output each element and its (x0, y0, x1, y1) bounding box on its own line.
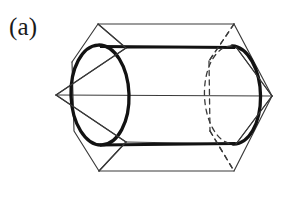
crossing-far-upper-left-hidden (209, 24, 234, 61)
cylinder-in-hexagonal-prism-diagram (0, 0, 293, 203)
cylinder-far-end-ellipse (204, 46, 260, 144)
crossing-near-upper-left (56, 48, 126, 95)
crossing-far-lower-left-hidden (210, 131, 234, 171)
cylinder-bottom-rule (100, 144, 235, 146)
prism-back-lower-left-edge (72, 62, 99, 171)
figure-panel: (a) (0, 0, 293, 203)
crossing-near-lower-left (56, 95, 126, 142)
prism-back-upper-left-edge (72, 24, 98, 62)
crossing-far-upper-right (236, 47, 272, 96)
prism-equator-line (56, 95, 272, 96)
crossing-far-lower-right (236, 96, 272, 144)
prism-side-edge-bottom-right (234, 96, 272, 171)
cylinder-top-rule (100, 47, 235, 48)
